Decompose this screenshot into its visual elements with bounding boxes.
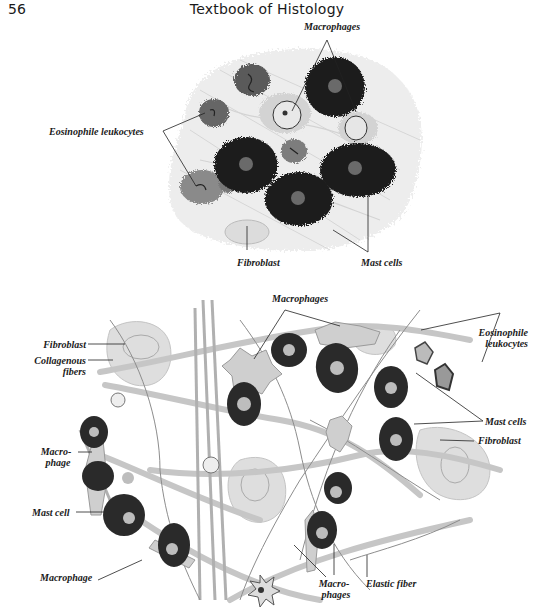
label-fibroblast-left: Fibroblast bbox=[20, 339, 86, 350]
label-collagenous: Collagenous bbox=[20, 355, 86, 366]
label-macrophages-top: Macrophages bbox=[304, 21, 360, 32]
label-fibroblast-right: Fibroblast bbox=[478, 435, 521, 446]
label-mast-cell-left: Mast cell bbox=[32, 507, 70, 518]
label-macrophage-left-1: Macro- bbox=[36, 446, 76, 457]
caption-fragment: ... bbox=[0, 607, 534, 613]
label-macrophages-bottom-2: phages bbox=[316, 589, 356, 600]
figure-top-illustration bbox=[0, 0, 534, 280]
label-macrophage-left-2: phage bbox=[38, 457, 78, 468]
label-mast-cells-right: Mast cells bbox=[485, 416, 526, 427]
label-mast-cells-top: Mast cells bbox=[361, 257, 402, 268]
label-elastic-fiber: Elastic fiber bbox=[366, 578, 416, 589]
label-eosinophile-bottom: Eosinophile bbox=[462, 327, 528, 338]
label-leukocytes-bottom: leukocytes bbox=[462, 338, 528, 349]
label-eosinophile-leukocytes-top: Eosinophile leukocytes bbox=[49, 126, 144, 137]
label-macrophage-bottom: Macrophage bbox=[40, 572, 92, 583]
label-macrophages-bottom-top: Macrophages bbox=[272, 293, 328, 304]
label-fibroblast-top: Fibroblast bbox=[237, 257, 280, 268]
label-macrophages-bottom-1: Macro- bbox=[314, 578, 354, 589]
figure-bottom-illustration bbox=[0, 280, 534, 610]
label-fibers: fibers bbox=[20, 366, 86, 377]
